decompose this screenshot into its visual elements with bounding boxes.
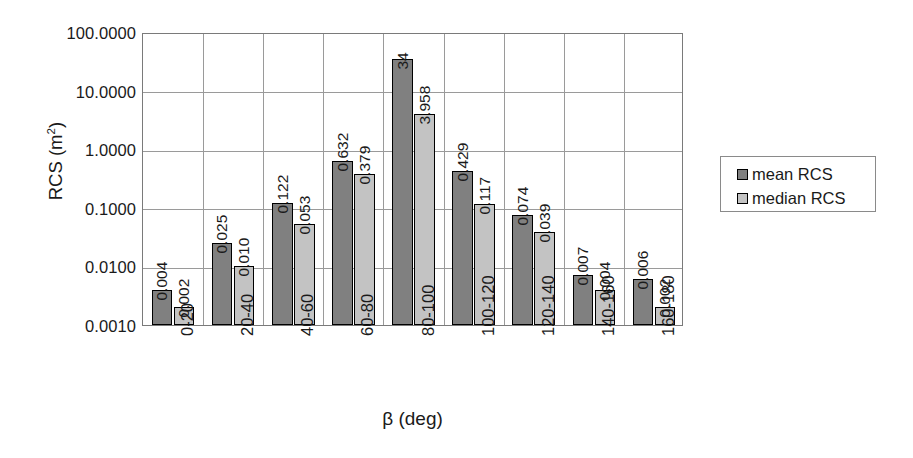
legend-swatch-median-icon [737,193,748,204]
y-axis-tick-label: 10.0000 [28,84,136,101]
x-axis-tick-label: 100-120 [480,275,497,336]
bar-mean-20-40 [212,243,233,325]
gridline-vertical [383,34,384,325]
legend-swatch-mean-icon [737,169,748,180]
gridline-vertical [263,34,264,325]
gridline-vertical [323,34,324,325]
bar-value-label: 0.007 [575,247,591,286]
bar-value-label: 0.632 [334,133,350,172]
bar-mean-120-140 [512,215,533,325]
legend: mean RCS median RCS [720,156,876,212]
bar-value-label: 0.379 [356,146,372,185]
gridline-vertical [564,34,565,325]
legend-label-mean: mean RCS [752,166,833,183]
bar-value-label: 0.039 [536,203,552,242]
bar-value-label: 0.002 [657,279,673,318]
legend-item-median: median RCS [737,188,875,209]
bar-mean-80-100 [392,59,413,325]
legend-item-mean: mean RCS [737,164,875,185]
bar-mean-100-120 [452,171,473,325]
legend-label-median: median RCS [752,190,846,207]
x-axis-tick-label: 20-40 [239,294,256,336]
rcs-bar-chart: RCS (m2) 100.000010.00001.00000.10000.01… [0,0,913,458]
bar-value-label: 0.010 [236,238,252,277]
x-axis-tick-label: 120-140 [540,275,557,336]
bar-value-label: 0.117 [476,177,492,215]
bar-value-label: 0.025 [214,215,230,254]
y-axis-tick-label: 0.1000 [28,201,136,218]
bar-mean-40-60 [272,203,293,325]
x-axis-title: β (deg) [142,408,683,430]
y-axis-tick-label: 1.0000 [28,142,136,159]
y-axis-tick-label: 0.0010 [28,318,136,335]
gridline-vertical [203,34,204,325]
bar-value-label: 0.053 [296,196,312,235]
y-axis-tick-label: 0.0100 [28,259,136,276]
bar-value-label: 34 [394,53,410,70]
x-axis-tick-label: 80-100 [420,285,437,336]
bar-value-label: 0.074 [514,187,530,226]
bar-value-label: 0.429 [454,142,470,181]
bar-value-label: 0.004 [597,261,613,300]
bar-value-label: 0.122 [274,174,290,213]
x-axis-tick-label: 60-80 [359,294,376,336]
gridline-vertical [444,34,445,325]
bar-value-label: 0.006 [635,251,651,290]
bar-value-label: 0.002 [176,279,192,318]
x-axis-tick-label: 40-60 [299,294,316,336]
gridline-vertical [504,34,505,325]
gridline-vertical [624,34,625,325]
y-axis-tick-labels: 100.000010.00001.00000.10000.01000.0010 [26,0,136,458]
bar-mean-60-80 [332,161,353,325]
bar-value-label: 3.958 [416,86,432,125]
bar-value-label: 0.004 [154,261,170,300]
y-axis-tick-label: 100.0000 [28,25,136,42]
